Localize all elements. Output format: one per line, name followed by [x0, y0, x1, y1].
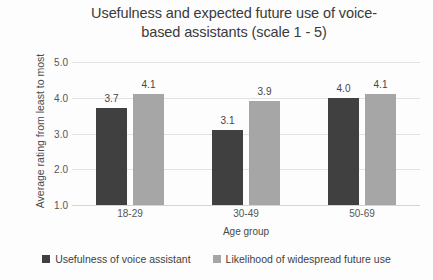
chart-container: Usefulness and expected future use of vo… [0, 0, 433, 280]
bar[interactable]: 4.1 [133, 94, 164, 205]
bar-value-label: 4.1 [374, 79, 388, 90]
x-axis-tick-labels: 18-2930-4950-69 [72, 208, 420, 219]
y-axis-tick-label: 3.0 [42, 128, 68, 139]
y-axis-tick-label: 2.0 [42, 164, 68, 175]
legend-swatch-icon [42, 255, 50, 263]
bar[interactable]: 3.1 [212, 130, 243, 205]
chart-title: Usefulness and expected future use of vo… [48, 4, 420, 42]
x-axis-tick-label: 50-69 [304, 208, 420, 219]
bar[interactable]: 4.0 [328, 98, 359, 205]
chart-title-line-1: Usefulness and expected future use of vo… [48, 4, 420, 23]
bar-group: 4.04.1 [304, 62, 420, 205]
legend-label: Usefulness of voice assistant [55, 253, 190, 265]
bar-groups: 3.74.13.13.94.04.1 [72, 62, 420, 205]
bar[interactable]: 3.7 [96, 108, 127, 205]
y-axis-tick-label: 4.0 [42, 92, 68, 103]
bar-value-label: 3.7 [105, 93, 119, 104]
legend-item[interactable]: Usefulness of voice assistant [42, 253, 190, 265]
bar-group: 3.13.9 [188, 62, 304, 205]
legend-label: Likelihood of widespread future use [226, 253, 391, 265]
bar[interactable]: 4.1 [365, 94, 396, 205]
legend-swatch-icon [213, 255, 221, 263]
x-axis-line [72, 205, 420, 206]
x-axis-tick-label: 30-49 [188, 208, 304, 219]
chart-legend: Usefulness of voice assistantLikelihood … [0, 253, 433, 265]
chart-title-line-2: based assistants (scale 1 - 5) [48, 23, 420, 42]
x-axis-title: Age group [72, 226, 420, 237]
bar-value-label: 4.1 [142, 79, 156, 90]
bar-value-label: 3.9 [258, 86, 272, 97]
x-axis-tick-label: 18-29 [72, 208, 188, 219]
bar-value-label: 4.0 [337, 83, 351, 94]
bar-group: 3.74.1 [72, 62, 188, 205]
y-axis-tick-labels: 5.04.03.02.01.0 [40, 62, 68, 205]
y-axis-tick-label: 5.0 [42, 57, 68, 68]
plot-area: 3.74.13.13.94.04.1 [72, 62, 420, 205]
bar-value-label: 3.1 [221, 115, 235, 126]
bar[interactable]: 3.9 [249, 101, 280, 205]
legend-item[interactable]: Likelihood of widespread future use [213, 253, 391, 265]
y-axis-tick-label: 1.0 [42, 200, 68, 211]
